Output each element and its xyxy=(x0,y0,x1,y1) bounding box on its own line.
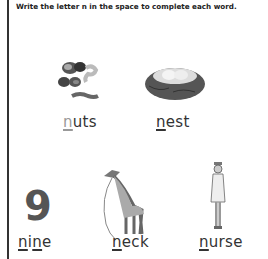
nest-picture xyxy=(143,62,207,102)
blank-letter[interactable]: n xyxy=(18,233,28,251)
blank-letter[interactable]: n xyxy=(63,113,73,131)
blank-letter[interactable]: n xyxy=(112,233,122,251)
number-nine-picture: 9 xyxy=(24,186,52,226)
page-border-line xyxy=(7,0,9,259)
word-nine: nine xyxy=(18,233,52,251)
nuts-picture xyxy=(56,60,102,104)
word-nuts: nuts xyxy=(63,113,97,131)
blank-letter[interactable]: n xyxy=(199,233,209,251)
word-neck: neck xyxy=(112,233,149,251)
word-nest: nest xyxy=(156,113,190,131)
instruction-text: Write the letter n in the space to compl… xyxy=(16,2,237,11)
blank-letter[interactable]: n xyxy=(32,233,42,251)
blank-letter[interactable]: n xyxy=(156,113,166,131)
word-nurse: nurse xyxy=(199,233,243,251)
nurse-picture xyxy=(208,162,228,232)
